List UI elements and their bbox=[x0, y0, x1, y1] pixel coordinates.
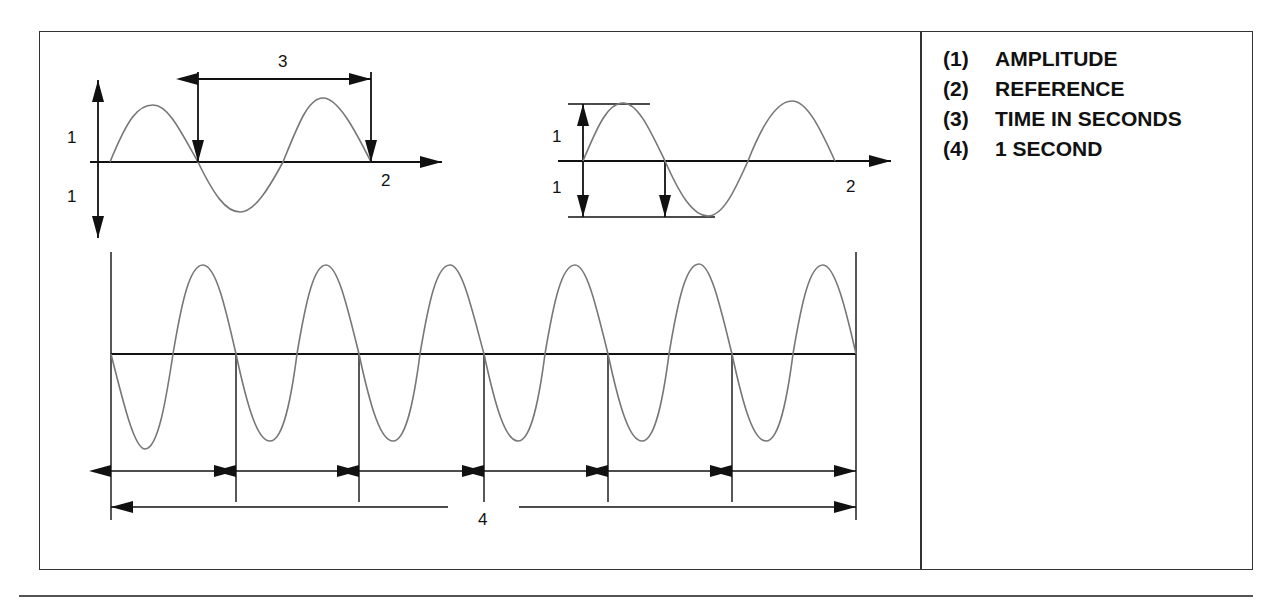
reference-label: 2 bbox=[381, 171, 390, 190]
legend-label: 1 SECOND bbox=[995, 134, 1102, 164]
legend-number: (2) bbox=[943, 74, 995, 104]
bottom-waveform: 4 bbox=[111, 252, 856, 529]
top-right-waveform: 1 1 2 bbox=[552, 101, 891, 217]
amplitude-up-label: 1 bbox=[552, 127, 561, 146]
reference-label: 2 bbox=[846, 177, 855, 196]
legend-label: AMPLITUDE bbox=[995, 44, 1118, 74]
legend-number: (1) bbox=[943, 44, 995, 74]
amplitude-down-label: 1 bbox=[67, 187, 76, 206]
one-second-label: 4 bbox=[478, 510, 487, 529]
legend-label: REFERENCE bbox=[995, 74, 1125, 104]
amplitude-up-label: 1 bbox=[67, 128, 76, 147]
sine-wave bbox=[110, 98, 371, 212]
legend-item-one-second: (4) 1 SECOND bbox=[943, 134, 1182, 164]
legend-number: (3) bbox=[943, 104, 995, 134]
legend: (1) AMPLITUDE (2) REFERENCE (3) TIME IN … bbox=[943, 44, 1182, 164]
legend-number: (4) bbox=[943, 134, 995, 164]
legend-item-amplitude: (1) AMPLITUDE bbox=[943, 44, 1182, 74]
top-left-waveform: 3 1 1 2 bbox=[67, 52, 442, 238]
legend-label: TIME IN SECONDS bbox=[995, 104, 1182, 134]
legend-item-time: (3) TIME IN SECONDS bbox=[943, 104, 1182, 134]
amplitude-down-label: 1 bbox=[552, 178, 561, 197]
sine-wave bbox=[583, 101, 835, 216]
period-label: 3 bbox=[278, 52, 287, 71]
legend-item-reference: (2) REFERENCE bbox=[943, 74, 1182, 104]
